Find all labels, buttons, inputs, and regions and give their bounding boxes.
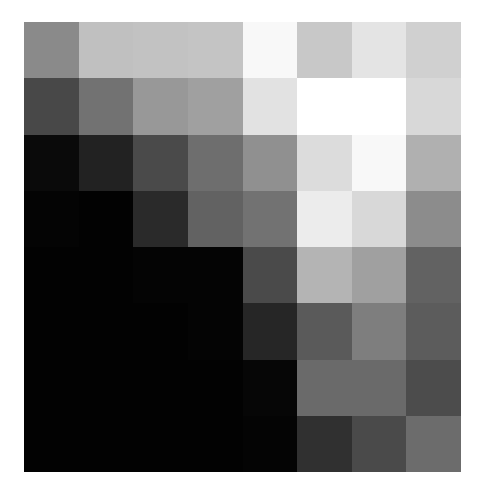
heatmap-cell bbox=[297, 360, 352, 416]
heatmap-cell bbox=[188, 135, 243, 191]
heatmap-cell bbox=[406, 360, 461, 416]
heatmap-cell bbox=[297, 78, 352, 134]
heatmap-cell bbox=[133, 303, 188, 359]
heatmap-cell bbox=[243, 22, 298, 78]
heatmap-cell bbox=[24, 78, 79, 134]
heatmap-cell bbox=[133, 78, 188, 134]
heatmap-cell bbox=[188, 22, 243, 78]
heatmap-cell bbox=[188, 191, 243, 247]
heatmap-cell bbox=[352, 135, 407, 191]
heatmap-cell bbox=[24, 303, 79, 359]
heatmap-cell bbox=[188, 303, 243, 359]
heatmap-cell bbox=[133, 135, 188, 191]
heatmap-cell bbox=[352, 78, 407, 134]
heatmap-cell bbox=[24, 360, 79, 416]
heatmap-cell bbox=[297, 416, 352, 472]
heatmap-cell bbox=[406, 22, 461, 78]
heatmap-cell bbox=[133, 360, 188, 416]
heatmap-cell bbox=[297, 247, 352, 303]
heatmap-cell bbox=[406, 135, 461, 191]
heatmap-cell bbox=[79, 247, 134, 303]
heatmap-cell bbox=[24, 191, 79, 247]
heatmap-cell bbox=[406, 303, 461, 359]
heatmap-cell bbox=[352, 22, 407, 78]
heatmap-cell bbox=[79, 416, 134, 472]
heatmap-cell bbox=[406, 416, 461, 472]
heatmap-cell bbox=[188, 360, 243, 416]
heatmap-cell bbox=[297, 22, 352, 78]
heatmap-cell bbox=[297, 303, 352, 359]
heatmap-cell bbox=[352, 360, 407, 416]
heatmap-cell bbox=[243, 78, 298, 134]
heatmap-cell bbox=[406, 78, 461, 134]
heatmap-cell bbox=[352, 303, 407, 359]
heatmap-cell bbox=[243, 360, 298, 416]
heatmap-cell bbox=[24, 247, 79, 303]
heatmap-cell bbox=[79, 360, 134, 416]
grayscale-heatmap bbox=[24, 22, 461, 472]
heatmap-cell bbox=[406, 247, 461, 303]
heatmap-cell bbox=[297, 191, 352, 247]
heatmap-cell bbox=[79, 22, 134, 78]
heatmap-cell bbox=[188, 78, 243, 134]
heatmap-cell bbox=[243, 191, 298, 247]
heatmap-cell bbox=[243, 303, 298, 359]
heatmap-cell bbox=[352, 416, 407, 472]
heatmap-cell bbox=[243, 135, 298, 191]
heatmap-cell bbox=[188, 247, 243, 303]
heatmap-cell bbox=[243, 416, 298, 472]
heatmap-cell bbox=[133, 247, 188, 303]
heatmap-cell bbox=[79, 78, 134, 134]
heatmap-cell bbox=[406, 191, 461, 247]
heatmap-cell bbox=[79, 135, 134, 191]
heatmap-cell bbox=[243, 247, 298, 303]
heatmap-cell bbox=[133, 191, 188, 247]
heatmap-cell bbox=[24, 22, 79, 78]
heatmap-cell bbox=[24, 135, 79, 191]
heatmap-cell bbox=[79, 303, 134, 359]
heatmap-cell bbox=[133, 22, 188, 78]
heatmap-cell bbox=[24, 416, 79, 472]
heatmap-cell bbox=[188, 416, 243, 472]
heatmap-cell bbox=[133, 416, 188, 472]
heatmap-cell bbox=[79, 191, 134, 247]
heatmap-cell bbox=[352, 191, 407, 247]
heatmap-cell bbox=[297, 135, 352, 191]
heatmap-cell bbox=[352, 247, 407, 303]
